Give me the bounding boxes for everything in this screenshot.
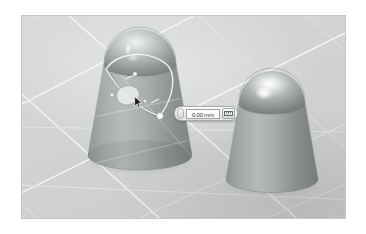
3d-viewport[interactable]: 0.00 mm	[21, 15, 346, 219]
ruler-icon	[224, 110, 233, 117]
gizmo-handle-top[interactable]	[133, 72, 137, 76]
dimension-value-field[interactable]: 0.00 mm	[186, 109, 220, 119]
gizmo-handle-left[interactable]	[110, 93, 114, 97]
cone-right[interactable]	[208, 78, 336, 206]
application-window: 0.00 mm	[0, 0, 366, 234]
gizmo-handle-primary[interactable]	[157, 113, 164, 120]
cone-right-geometry	[208, 78, 336, 206]
gizmo-handle-mid[interactable]	[143, 99, 147, 103]
dimension-input[interactable]: 0.00 mm	[174, 106, 238, 121]
drag-grip-icon[interactable]	[177, 108, 184, 119]
unit-button[interactable]	[222, 108, 235, 119]
